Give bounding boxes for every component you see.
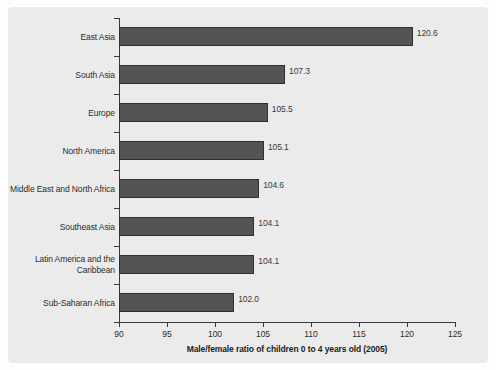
bar-value-label: 102.0 — [238, 294, 259, 305]
category-label: Southeast Asia — [0, 222, 115, 233]
x-axis-tick — [167, 322, 168, 327]
y-axis-tick — [114, 132, 119, 133]
x-axis-tick-label: 110 — [304, 329, 317, 339]
category-label-line: Latin America and the — [0, 254, 115, 265]
category-label-line: South Asia — [0, 70, 115, 81]
x-axis-tick-label: 115 — [352, 329, 365, 339]
category-label: Europe — [0, 108, 115, 119]
bar-row: 105.1 — [119, 132, 455, 170]
y-axis-tick — [114, 18, 119, 19]
bar-value-label: 104.1 — [258, 256, 279, 267]
chart-figure: 120.6107.3105.5105.1104.6104.1104.1102.0… — [0, 0, 496, 370]
x-axis-tick — [263, 322, 264, 327]
x-axis-tick — [455, 322, 456, 327]
category-label: East Asia — [0, 32, 115, 43]
bar[interactable] — [119, 217, 254, 236]
category-label-line: Europe — [0, 108, 115, 119]
category-label: South Asia — [0, 70, 115, 81]
bar-row: 120.6 — [119, 18, 455, 56]
y-axis-tick — [114, 208, 119, 209]
y-axis-tick — [114, 246, 119, 247]
bar-value-label: 104.1 — [258, 218, 279, 229]
x-axis-title: Male/female ratio of children 0 to 4 yea… — [119, 344, 455, 354]
plot-area: 120.6107.3105.5105.1104.6104.1104.1102.0… — [119, 18, 455, 322]
bar[interactable] — [119, 141, 264, 160]
x-axis-tick — [119, 322, 120, 327]
bar[interactable] — [119, 65, 285, 84]
bar-value-label: 105.5 — [272, 104, 293, 115]
bar-row: 107.3 — [119, 56, 455, 94]
category-label: Latin America and theCaribbean — [0, 254, 115, 276]
x-axis-line — [119, 322, 455, 323]
bar[interactable] — [119, 27, 413, 46]
x-axis-tick — [359, 322, 360, 327]
category-label: North America — [0, 146, 115, 157]
bar-row: 104.6 — [119, 170, 455, 208]
x-axis-tick-label: 100 — [208, 329, 222, 339]
y-axis-tick — [114, 284, 119, 285]
x-axis-tick — [215, 322, 216, 327]
x-axis-tick — [311, 322, 312, 327]
category-label-line: Middle East and North Africa — [0, 184, 115, 195]
category-label-line: Southeast Asia — [0, 222, 115, 233]
bar[interactable] — [119, 179, 259, 198]
y-axis-tick — [114, 94, 119, 95]
bar-value-label: 105.1 — [268, 142, 289, 153]
x-axis-tick-label: 120 — [400, 329, 414, 339]
x-axis-tick-label: 95 — [162, 329, 171, 339]
category-label-line: East Asia — [0, 32, 115, 43]
bar-row: 105.5 — [119, 94, 455, 132]
bar-value-label: 107.3 — [289, 66, 310, 77]
x-axis-tick-label: 105 — [256, 329, 270, 339]
x-axis-tick — [407, 322, 408, 327]
bar[interactable] — [119, 293, 234, 312]
bar[interactable] — [119, 255, 254, 274]
x-axis-tick-label: 90 — [114, 329, 123, 339]
bar[interactable] — [119, 103, 268, 122]
category-label: Sub-Saharan Africa — [0, 298, 115, 309]
bar-row: 104.1 — [119, 208, 455, 246]
category-label-line: North America — [0, 146, 115, 157]
bar-value-label: 104.6 — [263, 180, 284, 191]
y-axis-tick — [114, 56, 119, 57]
category-label-line: Sub-Saharan Africa — [0, 298, 115, 309]
y-axis-tick — [114, 170, 119, 171]
bar-value-label: 120.6 — [417, 28, 438, 39]
category-label: Middle East and North Africa — [0, 184, 115, 195]
category-label-line: Caribbean — [0, 265, 115, 276]
bar-row: 102.0 — [119, 284, 455, 322]
x-axis-tick-label: 125 — [448, 329, 462, 339]
bar-row: 104.1 — [119, 246, 455, 284]
